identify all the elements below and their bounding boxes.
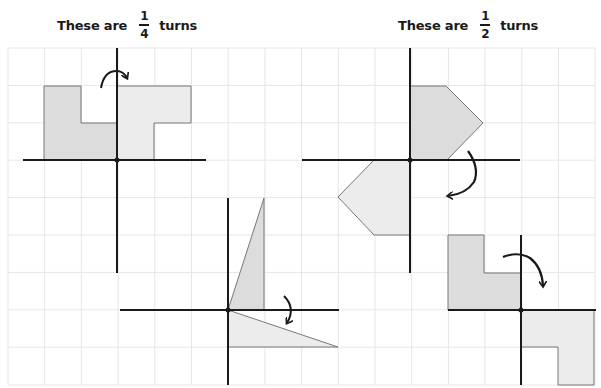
center-of-rotation — [408, 158, 413, 163]
clockwise-arrow-icon — [448, 151, 476, 196]
half-turn-L-shape-figure — [448, 235, 596, 385]
center-of-rotation — [115, 158, 120, 163]
center-of-rotation — [519, 308, 524, 313]
turns-diagram — [0, 0, 601, 388]
original-pentagon — [410, 86, 483, 160]
rotated-L-shape — [117, 86, 191, 160]
original-triangle — [228, 198, 264, 310]
original-L-shape — [448, 235, 521, 310]
quarter-turn-triangle-figure — [120, 198, 339, 385]
rotated-pentagon — [338, 160, 410, 235]
original-L-shape — [44, 86, 117, 160]
quarter-turn-L-shape-figure — [23, 48, 206, 273]
rotated-triangle — [228, 310, 338, 347]
half-turn-pentagon-figure — [302, 48, 520, 273]
center-of-rotation — [226, 308, 231, 313]
rotated-L-shape — [521, 310, 594, 385]
